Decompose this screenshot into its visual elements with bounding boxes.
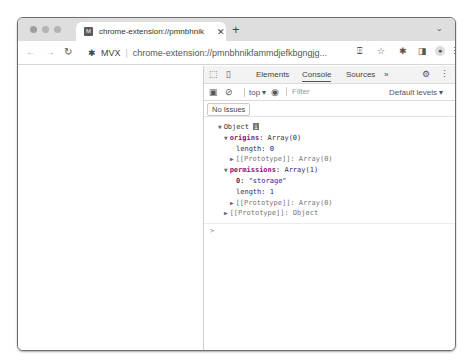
info-badge-icon: i bbox=[253, 123, 259, 130]
clear-console-icon[interactable]: ⊘ bbox=[225, 87, 233, 97]
puzzle-icon: ✱ bbox=[88, 48, 96, 58]
issues-bar: No Issues bbox=[204, 101, 455, 117]
extensions-icon[interactable]: ✱ bbox=[399, 46, 407, 56]
collapsed-triangle-icon[interactable]: ▶ bbox=[230, 155, 234, 162]
console-line[interactable]: ▼origins: Array(0) bbox=[204, 133, 455, 144]
back-button[interactable]: ← bbox=[26, 46, 36, 57]
context-selector[interactable]: top ▾ bbox=[244, 88, 266, 97]
issues-button[interactable]: No Issues bbox=[207, 103, 250, 116]
window-controls bbox=[30, 26, 61, 33]
browser-window: M chrome-extension://pmnbhnik ✕ + ⌄ ← → … bbox=[17, 17, 456, 351]
close-icon[interactable]: ✕ bbox=[217, 27, 225, 37]
expand-triangle-icon[interactable]: ▼ bbox=[224, 134, 228, 141]
url-text: chrome-extension://pmnbhnikfammdjefkbgng… bbox=[133, 48, 327, 58]
console-line: 0: "storage" bbox=[204, 176, 455, 187]
expand-triangle-icon[interactable]: ▼ bbox=[218, 123, 222, 130]
page-content bbox=[18, 66, 203, 350]
new-tab-button[interactable]: + bbox=[232, 22, 240, 37]
devtools-panel: ⬚ ▯ Elements Console Sources » ⚙ ⋮ ✕ ▣ ⊘… bbox=[203, 66, 455, 350]
tab-elements[interactable]: Elements bbox=[256, 70, 289, 79]
tab-sources[interactable]: Sources bbox=[346, 70, 375, 79]
omnibox-separator: | bbox=[126, 48, 128, 58]
share-icon[interactable]: ⍐ bbox=[357, 46, 362, 57]
devtools-menu-icon[interactable]: ⋮ bbox=[440, 69, 449, 79]
more-tabs-button[interactable]: » bbox=[384, 70, 388, 79]
minimize-window-button[interactable] bbox=[42, 26, 49, 33]
console-line[interactable]: ▶[[Prototype]]: Object bbox=[204, 208, 455, 219]
menu-icon[interactable]: ⋮ bbox=[450, 46, 456, 56]
console-prompt[interactable]: > bbox=[204, 224, 455, 235]
reload-button[interactable]: ↻ bbox=[64, 46, 72, 57]
profile-icon[interactable]: ● bbox=[435, 46, 445, 56]
tab-strip: M chrome-extension://pmnbhnik ✕ + ⌄ bbox=[18, 18, 455, 41]
tab-console[interactable]: Console bbox=[302, 70, 331, 82]
settings-gear-icon[interactable]: ⚙ bbox=[422, 69, 430, 79]
eye-icon[interactable]: ◉ bbox=[271, 87, 279, 97]
address-bar[interactable]: ✱ MVX | chrome-extension://pmnbhnikfammd… bbox=[88, 45, 327, 61]
sidebar-toggle-icon[interactable]: ▣ bbox=[209, 87, 218, 97]
log-levels-dropdown[interactable]: Default levels ▾ bbox=[389, 88, 443, 97]
filter-input[interactable]: Filter bbox=[286, 87, 386, 96]
collapsed-triangle-icon[interactable]: ▶ bbox=[230, 199, 234, 206]
forward-button[interactable]: → bbox=[45, 46, 55, 57]
sidepanel-icon[interactable]: ◨ bbox=[418, 46, 427, 56]
close-window-button[interactable] bbox=[30, 26, 37, 33]
console-line: length: 0 bbox=[204, 144, 455, 155]
expand-triangle-icon[interactable]: ▼ bbox=[224, 166, 228, 173]
console-line[interactable]: ▶[[Prototype]]: Array(0) bbox=[204, 154, 455, 165]
console-filterbar: ▣ ⊘ top ▾ ◉ Filter Default levels ▾ ⚙ bbox=[204, 84, 455, 101]
console-line[interactable]: ▼permissions: Array(1) bbox=[204, 165, 455, 176]
device-toolbar-icon[interactable]: ▯ bbox=[226, 69, 231, 79]
collapsed-triangle-icon[interactable]: ▶ bbox=[224, 209, 228, 216]
inspect-element-icon[interactable]: ⬚ bbox=[209, 69, 218, 79]
browser-toolbar: ← → ↻ ✱ MVX | chrome-extension://pmnbhni… bbox=[18, 41, 455, 65]
extension-favicon-icon: M bbox=[84, 27, 93, 36]
browser-tab[interactable]: M chrome-extension://pmnbhnik ✕ bbox=[76, 22, 226, 41]
console-line: length: 1 bbox=[204, 187, 455, 198]
tab-title: chrome-extension://pmnbhnik bbox=[99, 27, 211, 36]
tab-search-chevron-icon[interactable]: ⌄ bbox=[436, 24, 443, 33]
devtools-tabbar: ⬚ ▯ Elements Console Sources » ⚙ ⋮ ✕ bbox=[204, 66, 455, 84]
maximize-window-button[interactable] bbox=[54, 26, 61, 33]
extension-name: MVX bbox=[101, 48, 121, 58]
star-icon[interactable]: ☆ bbox=[377, 46, 385, 56]
console-line[interactable]: ▶[[Prototype]]: Array(0) bbox=[204, 198, 455, 209]
console-output: ▼Object i ▼origins: Array(0) length: 0 ▶… bbox=[204, 117, 455, 224]
console-object-root[interactable]: ▼Object i bbox=[204, 122, 455, 133]
